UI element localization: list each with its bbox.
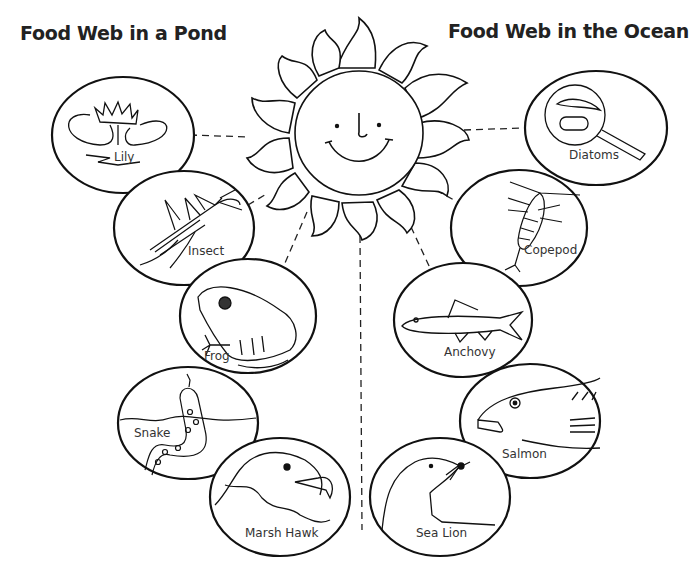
label-marsh-hawk: Marsh Hawk [245, 526, 318, 540]
sun-to-center-line [360, 236, 362, 530]
organism-diatoms [525, 71, 667, 185]
label-sea-lion: Sea Lion [416, 526, 467, 540]
sun-to-lily-line [190, 135, 250, 137]
organism-anchovy [394, 263, 532, 377]
label-frog: Frog [204, 349, 230, 363]
organism-frog [180, 259, 316, 373]
label-diatoms: Diatoms [569, 148, 619, 162]
sun-to-frog-line [282, 212, 307, 270]
smiling-sun-icon [247, 18, 469, 240]
label-copepod: Copepod [524, 243, 577, 257]
sun-left-eye [335, 124, 339, 128]
label-anchovy: Anchovy [444, 345, 496, 359]
sun-to-anchovy-line [411, 227, 430, 268]
label-snake: Snake [134, 426, 170, 440]
food-web-diagram [0, 0, 697, 571]
label-insect: Insect [188, 244, 224, 258]
label-lily: Lily [114, 150, 134, 164]
label-salmon: Salmon [502, 447, 547, 461]
sun-right-eye [377, 123, 381, 127]
sun-to-diatoms-line [464, 128, 523, 130]
sun-to-insect-line [248, 193, 268, 205]
